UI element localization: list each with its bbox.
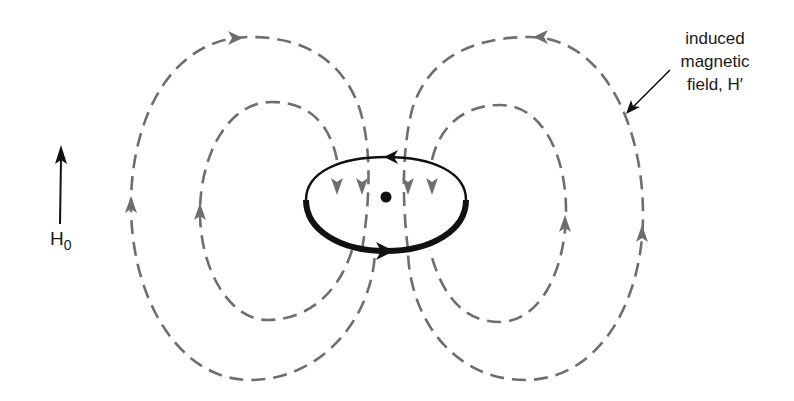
applied-field-label: H0 xyxy=(50,228,72,253)
arrow-down-icon xyxy=(426,178,438,195)
field-loop-outer-right xyxy=(404,37,643,380)
arrow-down-icon xyxy=(331,178,343,195)
ring-current xyxy=(306,150,466,260)
applied-field-subscript: 0 xyxy=(64,237,72,253)
arrow-down-icon xyxy=(356,178,368,195)
field-loop-inner-right xyxy=(430,105,566,322)
nucleus-dot xyxy=(381,192,392,203)
arrow-left-icon xyxy=(533,30,548,44)
induced-field-label: induced magnetic field, H′ xyxy=(660,27,770,96)
field-loop-inner-left xyxy=(200,102,352,320)
field-loop-outer-left xyxy=(131,37,375,380)
induced-label-line-2: magnetic xyxy=(660,50,770,73)
arrow-up-icon xyxy=(636,225,648,242)
induced-label-line-1: induced xyxy=(660,27,770,50)
induced-label-line-3: field, H′ xyxy=(660,73,770,96)
field-lines xyxy=(131,37,643,380)
applied-field-arrow xyxy=(55,145,67,224)
applied-field-symbol: H xyxy=(50,228,64,249)
field-arrows xyxy=(125,30,648,242)
arrow-right-icon xyxy=(228,31,243,45)
